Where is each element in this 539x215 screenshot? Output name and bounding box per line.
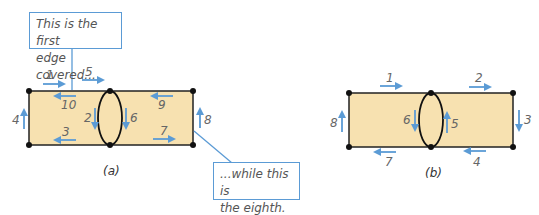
edge-label-6: 6: [130, 111, 138, 125]
graph-ellipse: [98, 91, 122, 145]
edge-label-1: 1: [386, 71, 394, 85]
edge-label-2: 2: [84, 111, 92, 125]
caption-b: (b): [425, 166, 442, 180]
graph-ellipse: [419, 93, 443, 147]
callout-eighth-edge: ...while this is the eighth.: [213, 162, 300, 200]
callout-eighth-line-1: ...while this is: [220, 166, 293, 200]
edge-label-3: 3: [62, 125, 70, 139]
edge-label-10: 10: [61, 98, 77, 112]
diagram-b: 1 2 3 4 5 6 7 8 (b): [330, 71, 532, 180]
edge-label-8: 8: [330, 116, 338, 130]
edge-label-4: 4: [12, 113, 20, 127]
callout-eighth-line-2: the eighth.: [220, 200, 293, 215]
callout-first-line-1: This is the first: [36, 16, 115, 50]
edge-label-5: 5: [451, 117, 459, 131]
caption-a: (a): [103, 164, 120, 178]
callout-leader-eighth: [194, 131, 232, 163]
edge-label-7: 7: [160, 124, 168, 138]
edge-label-6: 6: [403, 113, 411, 127]
edge-label-7: 7: [385, 155, 393, 169]
edge-label-2: 2: [475, 71, 483, 85]
callout-first-line-2: edge covered...: [36, 50, 115, 84]
edge-label-3: 3: [524, 113, 532, 127]
callout-first-edge: This is the first edge covered...: [29, 12, 122, 49]
edge-label-9: 9: [158, 98, 166, 112]
edge-label-8: 8: [204, 113, 212, 127]
edge-label-4: 4: [473, 155, 481, 169]
